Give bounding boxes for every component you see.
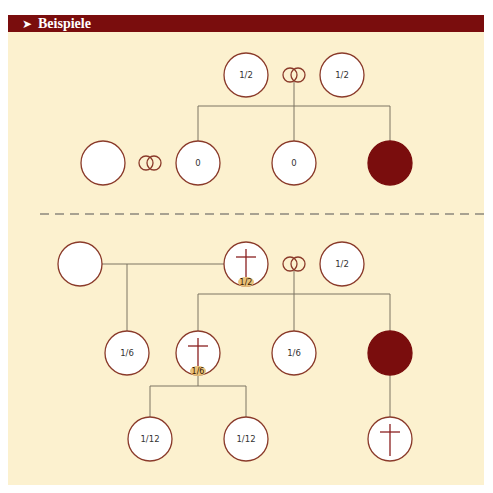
share-badge: 1/2: [238, 277, 254, 287]
affected-person-circle: [368, 141, 412, 185]
person-node-child1: 0: [176, 141, 220, 185]
svg-text:1/6: 1/6: [192, 367, 205, 376]
person-node-grandchild3: [368, 417, 412, 461]
share-label: 1/2: [239, 70, 253, 80]
share-label: 0: [291, 158, 296, 168]
share-label: 1/12: [140, 434, 159, 444]
person-node-grandchild1: 1/12: [128, 417, 172, 461]
marriage-rings-icon: [139, 156, 161, 170]
person-node-spouse: 1/2: [320, 242, 364, 286]
person-nodes: 1/21/2001/21/21/61/61/61/121/12: [58, 53, 412, 461]
person-node-grandchild2: 1/12: [224, 417, 268, 461]
share-label: 1/12: [236, 434, 255, 444]
person-node-deceased-parent: 1/2: [224, 242, 268, 287]
share-label: 1/2: [335, 259, 349, 269]
marriage-rings-icon: [283, 257, 305, 271]
share-badge: 1/6: [190, 366, 206, 376]
person-node-child3: [368, 331, 412, 375]
affected-person-circle: [368, 331, 412, 375]
share-label: 1/6: [287, 348, 301, 358]
person-node-spouse: [81, 141, 125, 185]
person-node-ex-spouse: [58, 242, 102, 286]
person-node-deceased-child: 1/6: [176, 331, 220, 376]
person-node-child2: 0: [272, 141, 316, 185]
pedigree-diagram: 1/21/2001/21/21/61/61/61/121/12: [0, 0, 493, 493]
person-circle: [58, 242, 102, 286]
share-label: 0: [195, 158, 200, 168]
person-circle: [81, 141, 125, 185]
person-node-child2: 1/6: [272, 331, 316, 375]
marriage-rings-icon: [283, 68, 305, 82]
person-node-father: 1/2: [320, 53, 364, 97]
person-node-child3: [368, 141, 412, 185]
share-label: 1/2: [335, 70, 349, 80]
svg-text:1/2: 1/2: [240, 278, 253, 287]
share-label: 1/6: [120, 348, 134, 358]
person-node-mother: 1/2: [224, 53, 268, 97]
person-node-halfchild: 1/6: [105, 331, 149, 375]
